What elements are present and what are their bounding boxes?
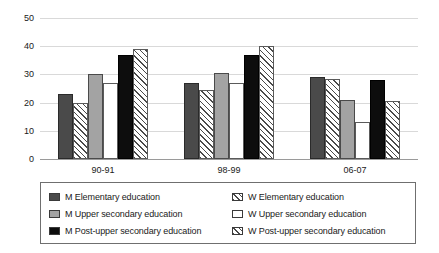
legend-item[interactable]: M Upper secondary education: [49, 205, 228, 222]
y-tick-label: 40: [24, 42, 34, 51]
y-tick-label: 0: [29, 155, 34, 164]
bar-m-post-upper[interactable]: [118, 55, 133, 159]
chart-legend: M Elementary educationW Elementary educa…: [40, 182, 416, 244]
bar-m-post-upper[interactable]: [244, 55, 259, 159]
bar-m-upper-secondary[interactable]: [340, 100, 355, 159]
legend-label: M Post-upper secondary education: [65, 226, 201, 236]
bar-w-post-upper[interactable]: [133, 49, 148, 159]
bar-m-post-upper[interactable]: [370, 80, 385, 159]
legend-swatch-icon: [232, 193, 243, 201]
legend-label: W Upper secondary education: [248, 209, 366, 219]
y-tick-label: 20: [24, 98, 34, 107]
bar-group-bars: [184, 18, 274, 159]
y-tick-label: 10: [24, 126, 34, 135]
legend-item[interactable]: W Post-upper secondary education: [232, 222, 411, 239]
bar-group: 98-99: [166, 18, 292, 159]
bar-m-elementary[interactable]: [184, 83, 199, 159]
bar-group-bars: [310, 18, 400, 159]
y-tick-label: 30: [24, 70, 34, 79]
bar-chart: 01020304050 90-9198-9906-07 M Elementary…: [0, 0, 439, 253]
legend-item[interactable]: M Post-upper secondary education: [49, 222, 228, 239]
legend-swatch-icon: [49, 210, 60, 218]
bar-m-elementary[interactable]: [310, 77, 325, 159]
legend-label: M Elementary education: [65, 192, 160, 202]
legend-label: M Upper secondary education: [65, 209, 182, 219]
legend-swatch-icon: [232, 227, 243, 235]
bar-m-upper-secondary[interactable]: [88, 74, 103, 159]
bar-w-post-upper[interactable]: [385, 101, 400, 159]
plot-area: 01020304050 90-9198-9906-07: [40, 18, 418, 159]
x-tick-label: 90-91: [40, 165, 166, 175]
bar-w-elementary[interactable]: [325, 79, 340, 159]
legend-swatch-icon: [232, 210, 243, 218]
legend-swatch-icon: [49, 193, 60, 201]
bar-group-bars: [58, 18, 148, 159]
axis-baseline: [40, 159, 418, 160]
bar-w-upper-secondary[interactable]: [103, 83, 118, 159]
legend-item[interactable]: M Elementary education: [49, 188, 228, 205]
legend-swatch-icon: [49, 227, 60, 235]
legend-item[interactable]: W Upper secondary education: [232, 205, 411, 222]
legend-label: W Elementary education: [248, 192, 344, 202]
legend-item[interactable]: W Elementary education: [232, 188, 411, 205]
bar-w-elementary[interactable]: [73, 103, 88, 159]
bar-w-elementary[interactable]: [199, 90, 214, 159]
bar-w-upper-secondary[interactable]: [229, 83, 244, 159]
y-tick-label: 50: [24, 14, 34, 23]
bar-m-elementary[interactable]: [58, 94, 73, 159]
x-tick-label: 98-99: [166, 165, 292, 175]
bar-w-post-upper[interactable]: [259, 46, 274, 159]
x-tick-label: 06-07: [292, 165, 418, 175]
bar-group: 06-07: [292, 18, 418, 159]
legend-label: W Post-upper secondary education: [248, 226, 385, 236]
bar-w-upper-secondary[interactable]: [355, 122, 370, 159]
bar-m-upper-secondary[interactable]: [214, 73, 229, 159]
bar-group: 90-91: [40, 18, 166, 159]
